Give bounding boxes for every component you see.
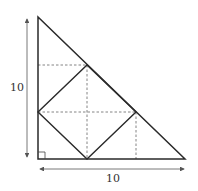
dashed-guides <box>38 65 136 159</box>
height-label: 10 <box>10 81 24 94</box>
base-label: 10 <box>106 172 120 185</box>
diagram-canvas: 10 10 <box>0 0 198 191</box>
right-angle-marker <box>38 152 45 159</box>
